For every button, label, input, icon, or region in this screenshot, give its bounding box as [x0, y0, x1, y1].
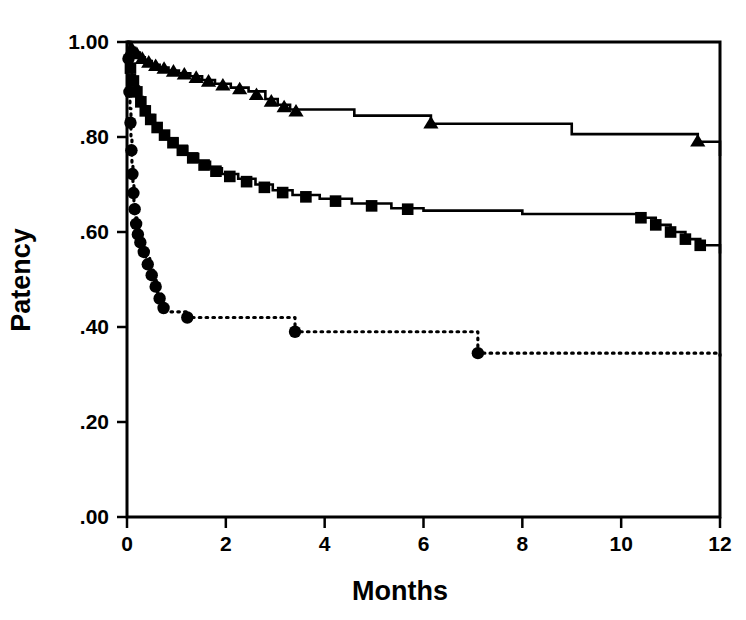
data-point-marker-square [210, 165, 222, 177]
data-point-marker-triangle [423, 116, 438, 129]
y-axis: .00.20.40.60.801.00 [68, 30, 127, 528]
chart-figure: .00.20.40.60.801.00 024681012 Months Pat… [0, 0, 746, 620]
data-point-marker-circle [289, 326, 301, 338]
x-tick-label: 0 [121, 532, 133, 555]
data-point-marker-triangle [249, 87, 264, 100]
data-point-marker-square [330, 195, 342, 207]
data-series-layer [122, 42, 720, 360]
data-point-marker-square [187, 152, 199, 164]
data-point-marker-square [694, 240, 706, 252]
data-point-marker-circle [142, 258, 154, 270]
data-point-marker-circle [122, 52, 134, 64]
data-point-marker-square [665, 226, 677, 238]
data-point-marker-square [259, 182, 271, 194]
data-point-marker-circle [125, 144, 137, 156]
data-point-marker-square [177, 145, 189, 157]
data-point-marker-circle [472, 347, 484, 359]
plot-frame [127, 42, 720, 517]
y-tick-label: .00 [80, 505, 109, 528]
data-point-marker-circle [126, 168, 138, 180]
data-point-marker-square [224, 171, 236, 183]
data-point-marker-square [402, 203, 414, 215]
x-tick-label: 8 [516, 532, 528, 555]
data-point-marker-circle [157, 302, 169, 314]
data-point-marker-triangle [690, 134, 705, 147]
data-point-marker-square [366, 200, 378, 212]
series-line-triangle [127, 42, 720, 156]
y-tick-label: .20 [80, 410, 109, 433]
data-point-marker-circle [146, 269, 158, 281]
data-point-marker-circle [130, 218, 142, 230]
patency-kaplan-meier-chart: .00.20.40.60.801.00 024681012 Months Pat… [0, 0, 746, 620]
data-point-marker-circle [128, 203, 140, 215]
data-point-marker-circle [127, 187, 139, 199]
x-tick-label: 10 [609, 532, 632, 555]
data-point-marker-circle [123, 86, 135, 98]
x-tick-label: 2 [220, 532, 232, 555]
y-tick-label: .60 [80, 220, 109, 243]
x-tick-label: 4 [319, 532, 331, 555]
data-point-marker-square [300, 191, 312, 203]
data-point-marker-square [241, 176, 253, 188]
y-tick-label: .40 [80, 315, 109, 338]
x-tick-label: 6 [418, 532, 430, 555]
data-point-marker-square [650, 219, 662, 231]
data-point-marker-circle [181, 311, 193, 323]
series-circle-series [122, 42, 720, 359]
y-axis-title: Patency [6, 228, 36, 332]
y-tick-label: 1.00 [68, 30, 109, 53]
series-square-series [125, 42, 720, 253]
data-point-marker-square [635, 212, 647, 224]
data-point-marker-square [277, 187, 289, 199]
series-line-square [127, 42, 720, 253]
x-tick-label: 12 [708, 532, 731, 555]
data-point-marker-square [198, 159, 210, 171]
x-axis-title: Months [352, 576, 448, 606]
x-axis: 024681012 [121, 517, 732, 555]
data-point-marker-square [680, 233, 692, 245]
data-point-marker-circle [138, 246, 150, 258]
y-tick-label: .80 [80, 125, 109, 148]
series-triangle-series [124, 42, 720, 156]
data-point-marker-circle [124, 117, 136, 129]
data-point-marker-circle [149, 280, 161, 292]
